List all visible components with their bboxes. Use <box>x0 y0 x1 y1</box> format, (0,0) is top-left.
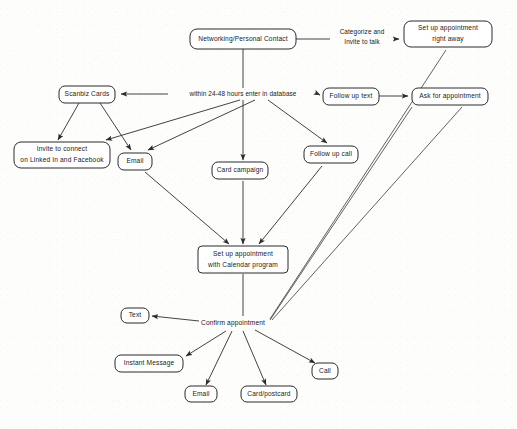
edge-follow-up-call-to-setup-calendar <box>259 166 322 244</box>
node-invite-to-connect-line2: on Linked In and Facebook <box>20 156 104 163</box>
node-card-postcard[interactable]: Card/postcard <box>241 386 297 402</box>
edge-networking-to-follow-up-call <box>268 100 327 143</box>
node-confirm-appointment-label: Confirm appointment <box>201 319 265 327</box>
node-card-postcard-label: Card/postcard <box>247 390 291 398</box>
edge-label-within-hours-text: within 24-48 hours enter in database <box>189 90 297 97</box>
edge-label-within-24-48-hours: within 24-48 hours enter in database <box>189 90 297 97</box>
node-invite-to-connect[interactable]: Invite to connect on Linked In and Faceb… <box>14 142 110 168</box>
node-set-up-appointment-with-calendar[interactable]: Set up appointment with Calendar program <box>198 246 288 273</box>
node-scanbiz-cards[interactable]: Scanbiz Cards <box>59 86 115 103</box>
node-instant-message-label: Instant Message <box>124 359 175 367</box>
edge-email-to-setup-calendar <box>145 172 229 244</box>
node-email-middle-label: Email <box>126 157 144 164</box>
node-set-up-appointment-right-away[interactable]: Set up appointment right away <box>404 21 492 47</box>
node-set-up-appointment-right-away-line1: Set up appointment <box>418 24 478 32</box>
node-networking-personal-contact-label: Networking/Personal Contact <box>198 35 287 43</box>
node-ask-for-appointment[interactable]: Ask for appointment <box>412 88 488 105</box>
node-call[interactable]: Call <box>312 363 338 379</box>
flowchart-svg: Networking/Personal Contact Set up appoi… <box>0 0 517 429</box>
node-card-campaign-label: Card campaign <box>217 166 264 174</box>
node-email-bottom[interactable]: Email <box>185 386 217 402</box>
edge-label-categorize-line1: Categorize and <box>340 28 385 36</box>
node-set-up-appointment-with-calendar-line1: Set up appointment <box>213 250 273 258</box>
node-set-up-appointment-with-calendar-line2: with Calendar program <box>207 261 278 269</box>
node-confirm-appointment[interactable]: Confirm appointment <box>201 319 265 327</box>
edge-database-to-follow-up-text <box>318 94 320 95</box>
node-invite-to-connect-line1: Invite to connect <box>37 145 88 152</box>
node-email-bottom-label: Email <box>192 390 210 397</box>
node-follow-up-call-label: Follow up call <box>310 150 352 158</box>
node-follow-up-text-label: Follow up text <box>330 92 373 100</box>
edge-label-categorize-and-invite-to-talk: Categorize and Invite to talk <box>340 28 385 45</box>
edge-follow-up-text-to-confirm <box>270 107 412 320</box>
edge-scanbiz-to-invite-connect <box>58 103 79 140</box>
edge-confirm-to-email-bottom <box>206 331 232 385</box>
node-call-label: Call <box>319 367 331 374</box>
node-set-up-appointment-right-away-line2: right away <box>432 35 464 43</box>
node-follow-up-call[interactable]: Follow up call <box>304 146 358 163</box>
node-text-label: Text <box>129 311 142 318</box>
node-follow-up-text[interactable]: Follow up text <box>323 88 379 105</box>
edge-confirm-to-call <box>255 330 315 363</box>
node-text[interactable]: Text <box>121 308 149 323</box>
node-networking-personal-contact[interactable]: Networking/Personal Contact <box>190 29 296 49</box>
edge-confirm-to-card-postcard <box>243 331 266 385</box>
node-scanbiz-cards-label: Scanbiz Cards <box>65 90 110 97</box>
edge-ask-appointment-to-confirm <box>272 107 462 320</box>
edge-label-categorize-line2: Invite to talk <box>344 38 380 45</box>
node-email-middle[interactable]: Email <box>118 153 152 170</box>
node-ask-for-appointment-label: Ask for appointment <box>419 92 481 100</box>
edge-networking-to-invite-connect <box>106 100 240 140</box>
flowchart-canvas: Networking/Personal Contact Set up appoi… <box>0 0 517 429</box>
edge-networking-to-email <box>148 100 255 150</box>
edge-confirm-to-text <box>152 316 199 321</box>
node-instant-message[interactable]: Instant Message <box>115 355 183 372</box>
node-card-campaign[interactable]: Card campaign <box>212 162 268 179</box>
edge-confirm-to-instant-message <box>186 331 226 356</box>
